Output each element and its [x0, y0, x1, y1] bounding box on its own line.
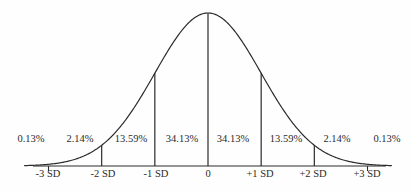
axis-tick-label: +1 SD [246, 169, 273, 180]
region-percentage-label: 34.13% [217, 134, 249, 145]
region-percentage-label: 0.13% [17, 134, 44, 145]
axis-tick-label: -2 SD [91, 169, 116, 180]
region-percentage-label: 2.14% [66, 134, 93, 145]
axis-tick-label: -3 SD [36, 169, 61, 180]
axis-tick-label: +3 SD [353, 169, 380, 180]
region-percentage-label: 2.14% [323, 134, 350, 145]
region-percentage-label: 13.59% [115, 134, 147, 145]
region-percentage-label: 0.13% [373, 134, 400, 145]
region-percentage-label: 13.59% [270, 134, 302, 145]
normal-distribution-figure: 0.13%2.14%13.59%34.13%34.13%13.59%2.14%0… [0, 0, 413, 191]
axis-tick-label: 0 [205, 169, 210, 180]
axis-tick-label: +2 SD [299, 169, 326, 180]
region-percentage-label: 34.13% [166, 134, 198, 145]
bell-curve-chart [0, 0, 413, 191]
axis-tick-label: -1 SD [144, 169, 169, 180]
